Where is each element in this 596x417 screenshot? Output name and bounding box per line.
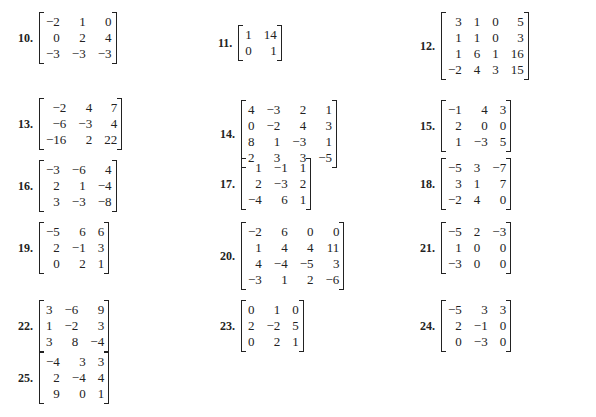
matrix-entry: 2 xyxy=(446,318,462,334)
problem-number: 17. xyxy=(220,177,235,192)
matrix-entry: 6 xyxy=(262,192,288,208)
matrix-entry: 8 xyxy=(246,134,255,150)
matrix-entry: 1 xyxy=(462,14,481,30)
matrix-entry: 1 xyxy=(446,46,462,62)
matrix-entry: 1 xyxy=(252,43,277,59)
matrix-entry: 0 xyxy=(44,30,60,46)
matrix-entry: 4 xyxy=(246,256,262,272)
matrix-entry: 6 xyxy=(262,224,288,240)
problem-20: 20.−2600144114−4−53−312−6 xyxy=(220,222,344,290)
matrix-entry: 2 xyxy=(44,240,60,256)
matrix-entry: 0 xyxy=(462,240,481,256)
matrix-entry: 7 xyxy=(92,100,117,116)
matrix-entry: −1 xyxy=(462,318,488,334)
problem-number: 24. xyxy=(420,319,435,334)
matrix-entry: 1 xyxy=(288,192,307,208)
matrix-entry: 3 xyxy=(78,318,104,334)
problem-25: 25.−4332−44901 xyxy=(18,352,109,404)
matrix-entry: 3 xyxy=(462,160,481,176)
problem-number: 11. xyxy=(218,36,232,51)
matrix-entry: −3 xyxy=(262,176,288,192)
matrix-entry: 1 xyxy=(60,14,86,30)
matrix-entry: 4 xyxy=(462,62,481,78)
matrix-entry: 0 xyxy=(462,118,488,134)
problem-number: 25. xyxy=(18,371,33,386)
matrix-entry: 7 xyxy=(480,176,506,192)
matrix: 0102−25021 xyxy=(241,300,304,352)
matrix-entry: −3 xyxy=(44,46,60,62)
matrix-entry: 4 xyxy=(246,102,255,118)
matrix-entry: 3 xyxy=(306,118,332,134)
matrix-entry: 2 xyxy=(255,334,281,350)
matrix-entry: 4 xyxy=(462,102,488,118)
matrix-entry: 1 xyxy=(306,134,332,150)
matrix-entry: 6 xyxy=(60,224,86,240)
matrix: −4332−44901 xyxy=(39,352,109,404)
problem-number: 18. xyxy=(420,177,435,192)
matrix-entry: 1 xyxy=(480,46,499,62)
matrix-entry: 3 xyxy=(44,194,60,210)
matrix-entry: 5 xyxy=(280,318,299,334)
matrix-entry: −2 xyxy=(255,118,281,134)
matrix-entry: −2 xyxy=(246,224,262,240)
matrix-entry: 0 xyxy=(288,224,314,240)
matrix-entry: 1 xyxy=(246,160,262,176)
matrix-entry: 1 xyxy=(255,302,281,318)
problem-number: 14. xyxy=(220,127,235,142)
matrix-entry: −6 xyxy=(60,162,86,178)
matrix-entry: −3 xyxy=(462,134,488,150)
matrix-entry: −3 xyxy=(446,256,462,272)
problem-16: 16.−3−6421−43−3−8 xyxy=(18,160,117,212)
matrix-entry: 8 xyxy=(53,334,79,350)
matrix: −247−6−34−16222 xyxy=(39,98,122,150)
matrix-entry: 11 xyxy=(314,240,340,256)
matrix-entry: 0 xyxy=(314,224,340,240)
matrix-entry: −7 xyxy=(480,160,506,176)
matrix-entry: 0 xyxy=(60,386,86,402)
matrix: 11401 xyxy=(238,25,282,61)
matrix-entry: 4 xyxy=(86,370,105,386)
matrix-entry: 0 xyxy=(488,334,507,350)
matrix-entry: 16 xyxy=(499,46,524,62)
matrix-entry: 2 xyxy=(246,318,255,334)
matrix-entry: 3 xyxy=(60,354,86,370)
matrix-entry: 2 xyxy=(280,102,306,118)
matrix-entry: 2 xyxy=(44,178,60,194)
matrix-entry: −1 xyxy=(60,240,86,256)
matrix-entry: 2 xyxy=(288,272,314,288)
matrix: 3105110316116−24315 xyxy=(441,12,529,80)
matrix-entry: 3 xyxy=(314,256,340,272)
problem-number: 23. xyxy=(220,319,235,334)
matrix: −5662−13021 xyxy=(39,222,109,274)
matrix-entry: 1 xyxy=(255,134,281,150)
matrix-entry: 1 xyxy=(446,134,462,150)
problem-number: 13. xyxy=(18,117,33,132)
matrix-entry: −5 xyxy=(288,256,314,272)
matrix: −5332−100−30 xyxy=(441,300,511,352)
problem-11: 11.11401 xyxy=(218,25,282,61)
matrix-entry: 1 xyxy=(446,240,462,256)
matrix-entry: 0 xyxy=(488,318,507,334)
matrix-entry: 0 xyxy=(246,334,255,350)
matrix-entry: −4 xyxy=(78,334,104,350)
matrix-entry: −16 xyxy=(44,132,66,148)
matrix-entry: −6 xyxy=(53,302,79,318)
matrix-entry: 0 xyxy=(480,240,506,256)
matrix-entry: −3 xyxy=(462,334,488,350)
matrix-entry: 2 xyxy=(66,132,92,148)
problem-23: 23.0102−25021 xyxy=(220,300,304,352)
matrix-entry: 2 xyxy=(288,176,307,192)
matrix: −3−6421−43−3−8 xyxy=(39,160,117,212)
problem-number: 21. xyxy=(420,241,435,256)
matrix-entry: −4 xyxy=(60,370,86,386)
matrix-entry: −6 xyxy=(314,272,340,288)
matrix-entry: 4 xyxy=(86,30,112,46)
problem-22: 22.3−691−2338−4 xyxy=(18,300,109,352)
matrix-entry: −2 xyxy=(44,100,66,116)
problem-13: 13.−247−6−34−16222 xyxy=(18,98,122,150)
matrix-entry: 1 xyxy=(462,176,481,192)
matrix-entry: 3 xyxy=(488,302,507,318)
matrix-entry: 1 xyxy=(243,27,252,43)
matrix-entry: 0 xyxy=(480,256,506,272)
matrix-entry: 3 xyxy=(499,30,524,46)
